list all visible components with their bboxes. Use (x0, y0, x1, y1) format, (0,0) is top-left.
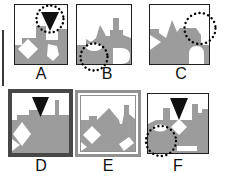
panel-f (147, 93, 209, 154)
panel-f-label: F (167, 157, 189, 175)
panel-f-scene (148, 94, 208, 153)
panel-c-label: C (170, 65, 192, 83)
page-crop-artifact-line (2, 30, 4, 86)
panel-b (76, 4, 132, 65)
cue-triangle-icon (170, 98, 188, 120)
panel-c-scene (150, 5, 209, 64)
panel-d-label: D (30, 157, 52, 175)
panel-a (14, 4, 68, 65)
arch-cutout (189, 46, 204, 64)
panel-b-label: B (96, 65, 118, 83)
panel-e (75, 90, 141, 157)
panel-b-scene (77, 5, 131, 64)
panel-e-scene (81, 96, 135, 151)
ellipse-change-region (153, 125, 167, 132)
panel-d-scene (12, 93, 69, 153)
panel-a-scene (15, 5, 67, 64)
ellipse-change-region (86, 43, 102, 51)
halfdisc-cutout (113, 48, 130, 64)
panel-e-label: E (97, 157, 119, 175)
panel-d (8, 89, 73, 157)
panel-a-label: A (30, 65, 52, 83)
stimulus-figure: A B C D E (0, 0, 226, 176)
panel-c (149, 4, 210, 65)
bar-cutout (177, 146, 197, 151)
